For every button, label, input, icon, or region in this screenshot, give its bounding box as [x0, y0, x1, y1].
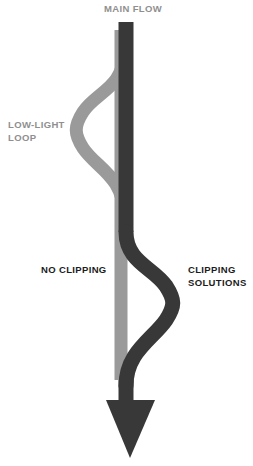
label-no-clipping: NO CLIPPING — [41, 264, 107, 277]
label-low-light-loop: LOW-LIGHT LOOP — [8, 119, 65, 144]
label-clipping-solutions: CLIPPING SOLUTIONS — [188, 264, 247, 289]
label-main-flow: MAIN FLOW — [104, 3, 162, 16]
clipping-solutions-branch — [126, 232, 173, 386]
flow-diagram: MAIN FLOW LOW-LIGHT LOOP NO CLIPPING CLI… — [0, 0, 253, 466]
flow-diagram-graphic — [0, 0, 253, 466]
main-flow-arrowhead — [106, 400, 155, 458]
